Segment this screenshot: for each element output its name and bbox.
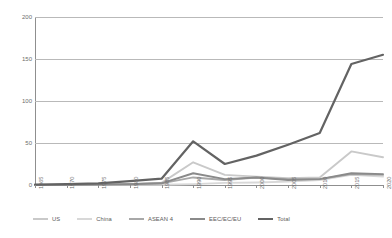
legend-swatch-icon [129, 218, 144, 221]
y-tick-label-50: 50 [4, 140, 32, 146]
legend-item-total[interactable]: Total [258, 216, 290, 222]
x-tick-mark-2020 [383, 185, 384, 188]
y-tick-label-150: 150 [4, 56, 32, 62]
legend-label: China [96, 216, 112, 222]
x-tick-mark-1995 [225, 185, 226, 188]
x-tick-mark-1990 [193, 185, 194, 188]
y-tick-label-0: 0 [4, 182, 32, 188]
y-tick-label-100: 100 [4, 98, 32, 104]
x-tick-label-1965: 1965 [38, 177, 44, 189]
legend-item-us[interactable]: US [33, 216, 60, 222]
y-tick-label-200: 200 [4, 14, 32, 20]
x-tick-label-2015: 2015 [354, 177, 360, 189]
legend-swatch-icon [77, 218, 92, 221]
legend-label: US [52, 216, 60, 222]
legend-item-asean-4[interactable]: ASEAN 4 [129, 216, 173, 222]
x-tick-label-1970: 1970 [69, 177, 75, 189]
x-tick-mark-1975 [98, 185, 99, 188]
series-line-us [35, 151, 383, 185]
legend-label: Total [277, 216, 290, 222]
legend-label: EEC/EC/EU [209, 216, 241, 222]
legend-item-eec-ec-eu[interactable]: EEC/EC/EU [190, 216, 241, 222]
legend-label: ASEAN 4 [148, 216, 173, 222]
y-axis-tick-labels: 050100150200 [0, 17, 32, 185]
x-tick-label-1980: 1980 [133, 177, 139, 189]
x-tick-label-2005: 2005 [291, 177, 297, 189]
x-tick-label-2000: 2000 [259, 177, 265, 189]
x-tick-label-1985: 1985 [164, 177, 170, 189]
x-tick-mark-2010 [320, 185, 321, 188]
plot-area [35, 17, 383, 185]
x-tick-label-1990: 1990 [196, 177, 202, 189]
x-tick-label-2010: 2010 [322, 177, 328, 189]
series-lines [35, 17, 383, 185]
legend-swatch-icon [190, 218, 205, 221]
x-tick-label-2020: 2020 [386, 177, 392, 189]
x-tick-mark-2005 [288, 185, 289, 188]
x-tick-mark-2000 [256, 185, 257, 188]
legend-item-china[interactable]: China [77, 216, 112, 222]
x-axis-tick-labels: 1965197019751980198519901995200020052010… [35, 185, 383, 209]
x-tick-mark-1970 [67, 185, 68, 188]
x-tick-label-1995: 1995 [227, 177, 233, 189]
series-line-total [35, 55, 383, 185]
legend-swatch-icon [33, 218, 48, 221]
legend-swatch-icon [258, 218, 273, 221]
chart-legend: USChinaASEAN 4EEC/EC/EUTotal [33, 213, 307, 225]
x-tick-mark-1965 [35, 185, 36, 188]
x-tick-mark-1985 [162, 185, 163, 188]
x-tick-mark-1980 [130, 185, 131, 188]
x-tick-mark-2015 [351, 185, 352, 188]
x-tick-label-1975: 1975 [101, 177, 107, 189]
